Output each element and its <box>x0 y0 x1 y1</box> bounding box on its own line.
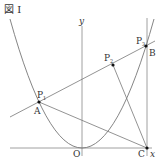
label-c: C <box>138 149 145 159</box>
svg-text:2: 2 <box>110 58 113 64</box>
point-c <box>145 146 148 149</box>
point-a <box>37 100 40 103</box>
svg-text:3: 3 <box>142 41 145 47</box>
svg-text:1: 1 <box>43 95 46 101</box>
label-p3: P 3 <box>136 36 145 47</box>
origin-label: O <box>73 149 80 159</box>
x-axis-label: x <box>150 149 155 159</box>
label-a: A <box>33 106 41 116</box>
y-axis-label: y <box>78 16 85 26</box>
label-b: B <box>149 48 156 58</box>
figure-title: 図 I <box>4 4 21 15</box>
line-ab <box>10 41 155 117</box>
geometry-figure: 図 I y x O A P 1 P 2 P 3 B C <box>0 0 158 160</box>
label-p1: P 1 <box>37 90 46 101</box>
label-p2: P 2 <box>104 53 113 64</box>
